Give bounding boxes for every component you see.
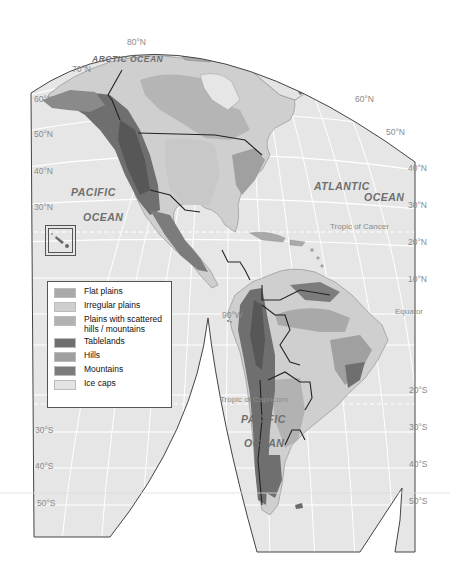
lat-label-50n-left: 50°N bbox=[34, 129, 53, 139]
lat-label-50n-right: 50°N bbox=[386, 127, 405, 137]
tropic-of-capricorn-label: Tropic of Capricorn bbox=[220, 395, 288, 404]
swatch-mountains bbox=[54, 366, 76, 376]
legend-label: Hills bbox=[84, 351, 100, 361]
lat-label-10n-right: 10°N bbox=[408, 274, 427, 284]
pacific-ocean-south-label-1: PACIFIC bbox=[241, 413, 286, 425]
lat-label-70n-left: 70°N bbox=[72, 64, 91, 74]
lat-label-30s-right: 30°S bbox=[409, 422, 428, 432]
legend-item-plains-scattered: Plains with scattered hills / mountains bbox=[54, 315, 165, 334]
legend-item-ice-caps: Ice caps bbox=[54, 379, 165, 390]
equator-label: Equator bbox=[395, 307, 423, 316]
pacific-ocean-south-label-2: OCEAN bbox=[244, 437, 284, 449]
legend-item-irregular-plains: Irregular plains bbox=[54, 301, 165, 312]
lat-label-40n-right: 40°N bbox=[408, 163, 427, 173]
lat-label-60n-left: 60°N bbox=[34, 94, 53, 104]
swatch-hills bbox=[54, 352, 76, 362]
atlantic-ocean-label-1: ATLANTIC bbox=[314, 180, 370, 192]
atlantic-ocean-label-2: OCEAN bbox=[364, 191, 404, 203]
lat-label-40n-left: 40°N bbox=[34, 166, 53, 176]
legend-item-flat-plains: Flat plains bbox=[54, 287, 165, 298]
lat-label-40s-right: 40°S bbox=[409, 459, 428, 469]
arctic-ocean-label: ARCTIC OCEAN bbox=[92, 54, 163, 64]
lat-label-50s-left: 50°S bbox=[37, 498, 56, 508]
lat-label-20s-right: 20°S bbox=[409, 385, 428, 395]
lat-label-20n-right: 20°N bbox=[408, 237, 427, 247]
legend-label: Plains with scattered hills / mountains bbox=[84, 315, 165, 334]
swatch-ice-caps bbox=[54, 380, 76, 390]
pacific-ocean-north-label-1: PACIFIC bbox=[71, 186, 116, 198]
hawaii-inset-frame bbox=[45, 225, 76, 256]
map-legend: Flat plains Irregular plains Plains with… bbox=[47, 281, 172, 408]
swatch-tablelands bbox=[54, 338, 76, 348]
legend-label: Tablelands bbox=[84, 337, 125, 347]
lat-label-30n-right: 30°N bbox=[408, 200, 427, 210]
lat-label-40s-left: 40°S bbox=[35, 461, 54, 471]
legend-label: Mountains bbox=[84, 365, 123, 375]
legend-item-tablelands: Tablelands bbox=[54, 337, 165, 348]
legend-item-hills: Hills bbox=[54, 351, 165, 362]
lat-label-80n: 80°N bbox=[127, 37, 146, 47]
tropic-of-cancer-label: Tropic of Cancer bbox=[330, 222, 389, 231]
swatch-flat-plains bbox=[54, 288, 76, 298]
lat-label-60n-right: 60°N bbox=[355, 94, 374, 104]
swatch-irregular-plains bbox=[54, 302, 76, 312]
lon-label-90w: 90°W bbox=[222, 310, 243, 320]
swatch-plains-scattered bbox=[54, 316, 76, 326]
lat-label-50s-right: 50°S bbox=[409, 496, 428, 506]
legend-label: Flat plains bbox=[84, 287, 123, 297]
legend-label: Ice caps bbox=[84, 379, 116, 389]
lat-label-30s-left: 30°S bbox=[35, 425, 54, 435]
legend-label: Irregular plains bbox=[84, 301, 140, 311]
legend-item-mountains: Mountains bbox=[54, 365, 165, 376]
pacific-ocean-north-label-2: OCEAN bbox=[83, 211, 123, 223]
lat-label-30n-left: 30°N bbox=[34, 202, 53, 212]
